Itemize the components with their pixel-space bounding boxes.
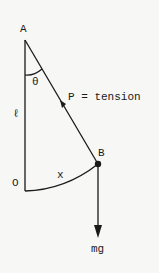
label-length: ℓ [13,108,20,120]
label-o: O [12,177,19,189]
label-a: A [20,23,27,35]
label-b: B [98,147,105,159]
pendulum-diagram: A θ P = tension ℓ B x O mg [0,0,159,273]
label-theta: θ [32,76,39,88]
tension-arrowhead [60,100,66,108]
weight-arrowhead [94,225,102,238]
label-mg: mg [91,243,104,255]
angle-arc [25,69,42,75]
label-tension: P = tension [68,91,141,103]
label-x: x [57,169,64,181]
